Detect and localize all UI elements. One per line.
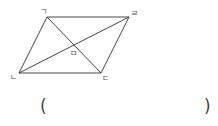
intersection-label: ㅁ [70,49,77,58]
answer-close-paren: ) [204,98,211,115]
answer-blank[interactable] [52,100,202,116]
diagonal-2 [19,17,129,73]
vertex-label-bottom-left: ㄴ [10,73,17,82]
answer-open-paren: ( [40,98,47,115]
vertex-label-top-left: ㄱ [40,7,47,16]
edge-left [19,17,47,73]
vertex-label-bottom-right: ㄷ [102,74,109,83]
vertex-label-top-right: ㄹ [131,9,138,18]
edge-right [101,17,129,73]
